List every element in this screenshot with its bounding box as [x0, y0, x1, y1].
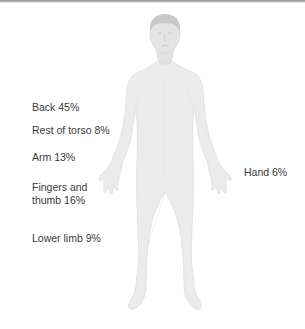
label-arm: Arm 13% — [32, 151, 75, 164]
body-silhouette — [0, 0, 305, 329]
label-rest-of-torso: Rest of torso 8% — [32, 124, 110, 137]
label-back: Back 45% — [32, 101, 79, 114]
label-fingers-thumb-line2: thumb 16% — [32, 194, 85, 207]
label-lower-limb: Lower limb 9% — [32, 232, 101, 245]
label-fingers-thumb-line1: Fingers and — [32, 181, 87, 194]
label-hand: Hand 6% — [244, 166, 287, 179]
